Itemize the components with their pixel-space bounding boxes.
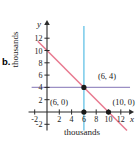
y-tick-label: 2 [39, 96, 43, 105]
y-axis-letter: y [36, 19, 41, 29]
graph-figure: b. thousands thousands -2246810121210864… [0, 0, 140, 141]
y-tick-label: 8 [39, 59, 43, 68]
coordinate-plot: -22468101212108642-2 (6, 4)(6, 0)(10, 0)… [0, 0, 140, 141]
vertex-point-label: (10, 0) [113, 98, 136, 107]
y-tick-label: 10 [35, 47, 43, 56]
axes [29, 20, 135, 131]
y-tick-label: -2 [36, 120, 43, 129]
y-tick-label: 4 [39, 83, 43, 92]
plotted-points: (6, 4)(6, 0)(10, 0) [50, 72, 135, 114]
vertex-point [81, 109, 86, 114]
x-axis-letter: x [129, 114, 134, 124]
x-tick-label: 6 [82, 115, 86, 124]
y-axis-arrow [44, 20, 50, 25]
vertex-point-label: (6, 0) [50, 98, 68, 107]
vertex-point [81, 85, 86, 90]
vertex-point [106, 109, 111, 114]
y-tick-label: 6 [39, 71, 43, 80]
y-tick-label: 12 [35, 34, 43, 43]
vertex-point-label: (6, 4) [98, 72, 116, 81]
x-tick-label: 4 [70, 115, 74, 124]
x-tick-label: 2 [57, 115, 61, 124]
x-tick-label: 10 [105, 115, 113, 124]
x-tick-label: 8 [94, 115, 98, 124]
x-tick-label: 12 [117, 115, 125, 124]
